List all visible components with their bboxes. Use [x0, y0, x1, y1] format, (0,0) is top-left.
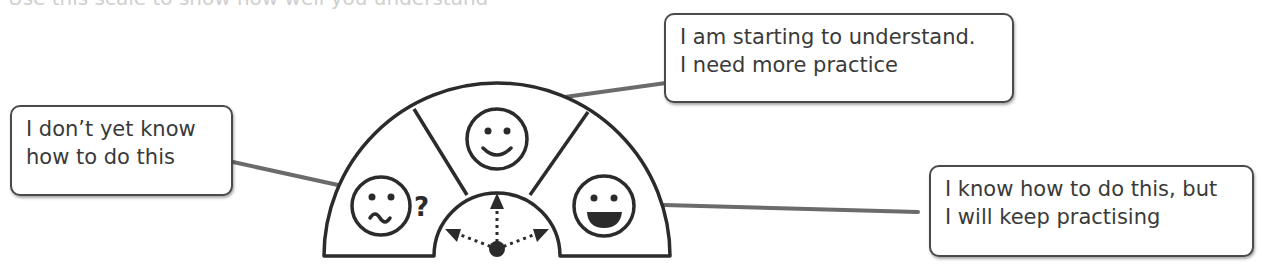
- connector-middle: [565, 83, 666, 97]
- connector-right: [664, 205, 918, 212]
- callout-line: how to do this: [26, 143, 217, 171]
- callout-line: I need more practice: [680, 51, 998, 79]
- callout-line: I know how to do this, but: [945, 175, 1238, 203]
- callout-starting: I am starting to understand. I need more…: [664, 13, 1014, 103]
- callout-not-yet: I don’t yet know how to do this: [10, 105, 233, 196]
- arrow-left-icon: [445, 229, 461, 242]
- callout-line: I will keep practising: [945, 203, 1238, 231]
- grinning-face-icon: [574, 176, 634, 236]
- callout-line: I don’t yet know: [26, 115, 217, 143]
- arrow-up-icon: [490, 193, 504, 209]
- question-mark-icon: ?: [414, 192, 429, 222]
- confused-face-icon: [352, 177, 410, 235]
- connector-left: [233, 162, 338, 185]
- arrow-right-icon: [533, 229, 549, 242]
- smiling-face-icon: [467, 109, 527, 169]
- callout-line: I am starting to understand.: [680, 23, 998, 51]
- pointer-hub-icon: [489, 241, 505, 257]
- callout-know-how: I know how to do this, but I will keep p…: [929, 165, 1254, 257]
- self-assessment-diagram: Use this scale to show how well you unde…: [0, 0, 1262, 276]
